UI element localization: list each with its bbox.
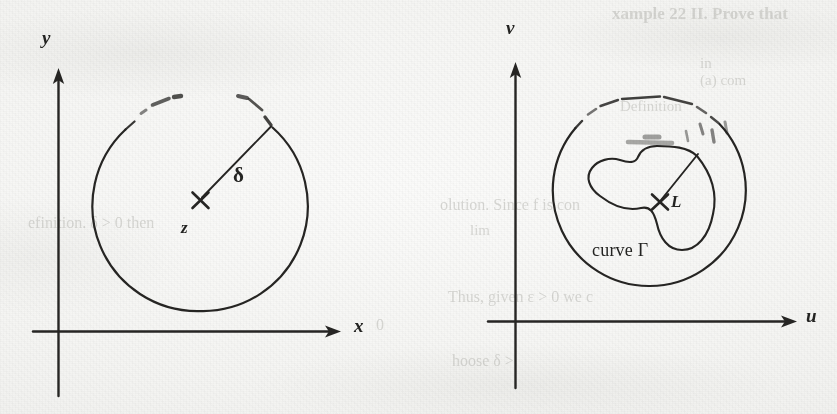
left-axis-label-x: x: [354, 315, 364, 337]
left-point-label-z: z: [181, 218, 188, 238]
left-delta-circle: [92, 96, 307, 311]
right-circle: [553, 97, 746, 287]
left-radius-label-delta: δ: [233, 163, 244, 188]
right-axis-label-u: u: [806, 305, 817, 327]
right-point-label-L: L: [671, 192, 681, 212]
right-axis-label-v: v: [506, 17, 514, 39]
curve-gamma-label: curve Γ: [592, 240, 648, 261]
right-u-axis: [488, 316, 797, 328]
right-v-axis: [510, 62, 521, 388]
right-panel-group: [488, 62, 797, 388]
left-center-cross-mark: [193, 193, 209, 209]
right-center-cross-mark: [652, 195, 668, 210]
figure-drawing: [0, 0, 837, 414]
left-x-axis: [33, 326, 341, 338]
curve-gamma: [589, 146, 715, 250]
left-y-axis: [53, 68, 64, 396]
figure-page: xample 22 II. Prove thatinDefinitionolut…: [0, 0, 837, 414]
left-axis-label-y: y: [42, 27, 50, 49]
